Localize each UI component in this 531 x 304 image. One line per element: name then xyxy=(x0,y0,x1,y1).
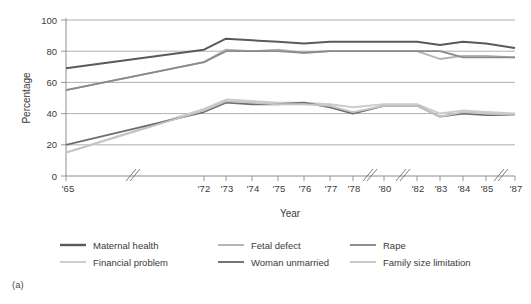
y-tick-label-20: 20 xyxy=(46,139,57,150)
axis-break-1 xyxy=(126,169,140,181)
legend-item-fetal-defect[interactable]: Fetal defect xyxy=(218,240,301,251)
x-tick-labels: '65 '72 '73 '74 '75 '76 '77 '78 '80 '82 … xyxy=(62,183,522,194)
legend-label: Fetal defect xyxy=(251,240,301,251)
x-axis-title: Year xyxy=(280,208,301,219)
x-tick-label-78: '78 xyxy=(348,183,360,194)
chart-legend: Maternal healthFetal defectRapeFinancial… xyxy=(60,240,471,268)
x-tick-label-82: '82 xyxy=(412,183,424,194)
x-tick-label-75: '75 xyxy=(273,183,285,194)
legend-label: Rape xyxy=(383,240,406,251)
x-tick-label-76: '76 xyxy=(299,183,311,194)
y-tick-marks xyxy=(61,20,66,176)
axis-break-marks xyxy=(126,169,508,181)
legend-label: Woman unmarried xyxy=(251,257,329,268)
axis-break-2 xyxy=(363,169,377,181)
legend-label: Financial problem xyxy=(93,257,168,268)
series-layer xyxy=(66,39,515,153)
legend-item-family-size-limitation[interactable]: Family size limitation xyxy=(350,257,471,268)
y-tick-label-100: 100 xyxy=(41,15,57,26)
x-tick-label-73: '73 xyxy=(221,183,233,194)
x-tick-label-72: '72 xyxy=(198,183,210,194)
x-tick-label-87: '87 xyxy=(510,183,522,194)
axis-break-4 xyxy=(494,169,508,181)
legend-label: Maternal health xyxy=(93,240,158,251)
y-axis-title: Percentage xyxy=(21,72,32,124)
x-tick-label-85: '85 xyxy=(481,183,493,194)
line-chart: 100 80 60 40 20 0 Percentage xyxy=(0,0,531,304)
figure-panel: 100 80 60 40 20 0 Percentage xyxy=(0,0,531,304)
series-line-rape xyxy=(66,51,515,90)
legend-item-financial-problem[interactable]: Financial problem xyxy=(60,257,168,268)
legend-item-maternal-health[interactable]: Maternal health xyxy=(60,240,158,251)
series-line-woman-unmarried xyxy=(66,103,515,145)
x-tick-label-80: '80 xyxy=(379,183,391,194)
x-tick-label-84: '84 xyxy=(458,183,470,194)
series-line-fetal-defect xyxy=(66,50,515,91)
y-tick-label-60: 60 xyxy=(46,77,57,88)
x-tick-label-77: '77 xyxy=(325,183,337,194)
legend-item-rape[interactable]: Rape xyxy=(350,240,406,251)
x-tick-label-65: '65 xyxy=(62,183,74,194)
legend-item-woman-unmarried[interactable]: Woman unmarried xyxy=(218,257,329,268)
x-tick-label-83: '83 xyxy=(435,183,447,194)
y-tick-label-80: 80 xyxy=(46,46,57,57)
y-tick-label-0: 0 xyxy=(52,171,57,182)
axis-break-3 xyxy=(396,169,410,181)
panel-label: (a) xyxy=(12,279,24,290)
legend-label: Family size limitation xyxy=(383,257,471,268)
y-tick-label-40: 40 xyxy=(46,108,57,119)
x-tick-label-74: '74 xyxy=(247,183,259,194)
y-tick-labels: 100 80 60 40 20 0 xyxy=(41,15,57,182)
gridlines xyxy=(66,20,515,145)
